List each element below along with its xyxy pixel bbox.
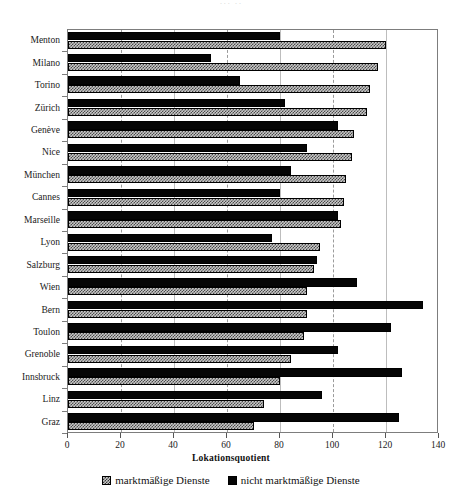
bar-nicht-marktmaessige-dienste: [68, 99, 285, 108]
x-axis-title: Lokationsquotient: [0, 453, 462, 463]
x-axis-tick-120: [385, 433, 386, 438]
bar-nicht-marktmaessige-dienste: [68, 256, 317, 265]
legend-label: marktmäßige Dienste: [115, 474, 209, 486]
y-axis-label: Toulon: [33, 327, 60, 337]
bar-group: [68, 254, 437, 276]
y-axis-label: München: [24, 170, 60, 180]
bar-group: [68, 142, 437, 164]
bar-nicht-marktmaessige-dienste: [68, 211, 338, 220]
x-axis-tick-label: 20: [115, 440, 125, 450]
bar-marktmaessige-dienste: [68, 332, 304, 340]
y-axis-label: Milano: [33, 58, 60, 68]
bar-nicht-marktmaessige-dienste: [68, 346, 338, 355]
y-axis-label: Bern: [42, 305, 60, 315]
bar-group: [68, 165, 437, 187]
bar-nicht-marktmaessige-dienste: [68, 121, 338, 130]
bar-group: [68, 97, 437, 119]
bar-marktmaessige-dienste: [68, 243, 320, 251]
bar-marktmaessige-dienste: [68, 175, 346, 183]
bar-nicht-marktmaessige-dienste: [68, 76, 240, 85]
bar-marktmaessige-dienste: [68, 355, 291, 363]
y-axis-category-labels: MentonMilanoTorinoZürichGenèveNiceMünche…: [0, 29, 64, 433]
bar-rows: [68, 30, 437, 432]
bar-marktmaessige-dienste: [68, 400, 264, 408]
bar-marktmaessige-dienste: [68, 220, 341, 228]
bar-group: [68, 277, 437, 299]
x-axis-tick-label: 40: [168, 440, 178, 450]
x-axis-tick-label: 0: [65, 440, 70, 450]
bar-marktmaessige-dienste: [68, 130, 354, 138]
bar-marktmaessige-dienste: [68, 310, 307, 318]
legend-label: nicht marktmäßige Dienste: [241, 474, 360, 486]
bar-group: [68, 344, 437, 366]
x-axis-tick-100: [332, 433, 333, 438]
x-axis-tick-20: [120, 433, 121, 438]
y-axis-label: Torino: [35, 80, 60, 90]
x-axis-tick-label: 80: [274, 440, 284, 450]
y-axis-label: Linz: [43, 394, 60, 404]
y-axis-label: Nice: [42, 147, 60, 157]
x-axis-tick-140: [438, 433, 439, 438]
bar-marktmaessige-dienste: [68, 63, 378, 71]
legend-item: nicht marktmäßige Dienste: [228, 474, 360, 486]
bar-group: [68, 75, 437, 97]
y-axis-label: Salzburg: [26, 260, 60, 270]
bar-group: [68, 120, 437, 142]
bar-group: [68, 367, 437, 389]
bar-marktmaessige-dienste: [68, 422, 254, 430]
bar-nicht-marktmaessige-dienste: [68, 166, 291, 175]
bar-marktmaessige-dienste: [68, 108, 367, 116]
bar-group: [68, 412, 437, 434]
y-axis-label: Marseille: [24, 215, 60, 225]
bar-marktmaessige-dienste: [68, 198, 344, 206]
x-axis-tick-0: [67, 433, 68, 438]
x-axis-tick-label: 100: [325, 440, 339, 450]
bar-nicht-marktmaessige-dienste: [68, 323, 391, 332]
bar-nicht-marktmaessige-dienste: [68, 278, 357, 287]
bar-nicht-marktmaessige-dienste: [68, 391, 322, 400]
bar-group: [68, 187, 437, 209]
bar-group: [68, 210, 437, 232]
bar-group: [68, 52, 437, 74]
legend-swatch-icon: [102, 476, 111, 485]
x-axis-tick-label: 140: [431, 440, 445, 450]
plot-area: [67, 29, 438, 433]
bar-nicht-marktmaessige-dienste: [68, 413, 399, 422]
bar-marktmaessige-dienste: [68, 377, 280, 385]
legend-swatch-icon: [228, 476, 237, 485]
bar-group: [68, 232, 437, 254]
legend-item: marktmäßige Dienste: [102, 474, 209, 486]
bar-group: [68, 30, 437, 52]
x-axis-tick-40: [173, 433, 174, 438]
y-axis-label: Lyon: [40, 237, 60, 247]
x-axis-tick-60: [226, 433, 227, 438]
y-axis-label: Cannes: [32, 192, 60, 202]
y-axis-label: Innsbruck: [22, 372, 60, 382]
bar-marktmaessige-dienste: [68, 85, 370, 93]
bar-group: [68, 299, 437, 321]
bar-marktmaessige-dienste: [68, 287, 307, 295]
y-axis-label: Genève: [31, 125, 60, 135]
bar-nicht-marktmaessige-dienste: [68, 234, 272, 243]
chart-legend: marktmäßige Dienstenicht marktmäßige Die…: [0, 474, 462, 486]
x-axis-tick-label: 60: [221, 440, 231, 450]
y-axis-label: Wien: [40, 282, 60, 292]
bar-nicht-marktmaessige-dienste: [68, 301, 423, 310]
bar-group: [68, 389, 437, 411]
x-axis-tick-label: 120: [378, 440, 392, 450]
bar-marktmaessige-dienste: [68, 41, 386, 49]
bar-marktmaessige-dienste: [68, 153, 352, 161]
y-axis-label: Graz: [42, 417, 60, 427]
y-axis-label: Menton: [30, 35, 60, 45]
bar-nicht-marktmaessige-dienste: [68, 189, 280, 198]
chart-figure: MentonMilanoTorinoZürichGenèveNiceMünche…: [0, 0, 462, 494]
bar-nicht-marktmaessige-dienste: [68, 32, 280, 41]
bar-nicht-marktmaessige-dienste: [68, 144, 307, 153]
bar-marktmaessige-dienste: [68, 265, 314, 273]
bar-nicht-marktmaessige-dienste: [68, 54, 211, 63]
y-axis-label: Zürich: [35, 103, 60, 113]
bar-nicht-marktmaessige-dienste: [68, 368, 402, 377]
y-axis-label: Grenoble: [25, 349, 60, 359]
bar-group: [68, 322, 437, 344]
x-axis-tick-80: [279, 433, 280, 438]
